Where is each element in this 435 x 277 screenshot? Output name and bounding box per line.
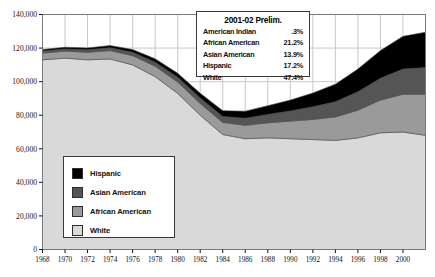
info-value-hispanic: 17.2%: [284, 60, 303, 71]
y-axis: 020,00040,00060,00080,000100,000120,0001…: [12, 10, 42, 254]
legend-item-asian-american: Asian American: [72, 183, 174, 202]
legend-label-hispanic: Hispanic: [90, 169, 121, 178]
y-tick-label: 60,000: [16, 145, 37, 154]
x-tick-label: 1996: [351, 256, 366, 264]
info-value-american-indian: .3%: [291, 26, 303, 37]
legend-item-hispanic: Hispanic: [72, 164, 174, 183]
y-tick-label: 40,000: [16, 178, 37, 187]
legend-swatch-hispanic: [72, 168, 83, 179]
x-tick-label: 1968: [35, 256, 50, 264]
y-tick-label: 20,000: [16, 212, 37, 221]
info-row-african-american: African American 21.2%: [203, 37, 303, 48]
legend-swatch-african-american: [72, 206, 83, 217]
info-value-african-american: 21.2%: [284, 37, 303, 48]
y-tick-label: 0: [33, 245, 37, 254]
info-label-white: White: [203, 72, 222, 83]
chart-legend: Hispanic Asian American African American…: [63, 156, 175, 238]
info-label-hispanic: Hispanic: [203, 60, 231, 71]
x-tick-label: 1974: [103, 256, 118, 264]
x-tick-label: 1984: [216, 256, 231, 264]
legend-swatch-white: [72, 225, 83, 236]
info-label-african-american: African American: [203, 37, 259, 48]
x-tick-label: 1970: [58, 256, 73, 264]
legend-label-african-american: African American: [90, 207, 151, 216]
x-tick-label: 1994: [328, 256, 343, 264]
y-tick-label: 100,000: [12, 77, 37, 86]
info-row-white: White 47.4%: [203, 72, 303, 83]
info-row-asian-american: Asian American 13.9%: [203, 49, 303, 60]
y-tick-label: 120,000: [12, 44, 37, 53]
legend-label-white: White: [90, 226, 110, 235]
legend-item-african-american: African American: [72, 202, 174, 221]
info-box-title: 2001-02 Prelim.: [203, 15, 303, 25]
y-tick-label: 80,000: [16, 111, 37, 120]
legend-item-white: White: [72, 221, 174, 240]
x-tick-label: 2000: [396, 256, 411, 264]
y-tick-label: 140,000: [12, 10, 37, 19]
x-tick-label: 1988: [261, 256, 276, 264]
info-row-hispanic: Hispanic 17.2%: [203, 60, 303, 71]
x-tick-label: 1992: [306, 256, 321, 264]
x-tick-label: 1986: [238, 256, 253, 264]
legend-label-asian-american: Asian American: [90, 188, 146, 197]
info-value-asian-american: 13.9%: [284, 49, 303, 60]
x-tick-label: 1998: [373, 256, 388, 264]
prelim-info-box: 2001-02 Prelim. American Indian .3% Afri…: [196, 11, 310, 77]
info-value-white: 47.4%: [284, 72, 303, 83]
legend-swatch-asian-american: [72, 187, 83, 198]
x-tick-label: 1982: [193, 256, 208, 264]
x-tick-label: 1980: [170, 256, 185, 264]
x-tick-label: 1990: [283, 256, 298, 264]
x-axis: 1968197019721974197619781980198219841986…: [35, 250, 410, 265]
x-tick-label: 1976: [125, 256, 140, 264]
x-tick-label: 1972: [80, 256, 95, 264]
info-row-american-indian: American Indian .3%: [203, 26, 303, 37]
info-label-asian-american: Asian American: [203, 49, 254, 60]
x-tick-label: 1978: [148, 256, 163, 264]
chart-container: 020,00040,00060,00080,000100,000120,0001…: [0, 0, 435, 277]
info-label-american-indian: American Indian: [203, 26, 256, 37]
